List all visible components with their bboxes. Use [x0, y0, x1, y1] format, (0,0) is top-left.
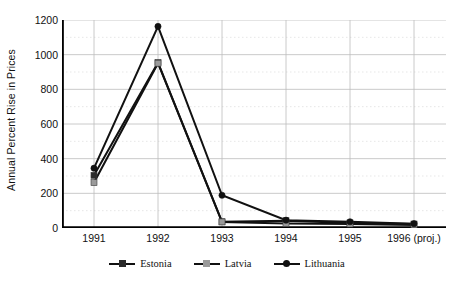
data-point	[91, 180, 97, 186]
legend-item-estonia[interactable]: Estonia	[109, 258, 172, 269]
line-chart: Annual Percent Rise in Prices 0200400600…	[0, 0, 454, 282]
series-estonia	[94, 63, 414, 224]
x-tick-label: 1994	[274, 232, 297, 244]
series-latvia	[94, 63, 414, 225]
legend-item-latvia[interactable]: Latvia	[194, 258, 252, 269]
legend-swatch-lithuania	[274, 259, 300, 269]
series-markers-estonia	[91, 60, 417, 227]
y-tick-label: 200	[40, 187, 58, 199]
series-markers-latvia	[91, 60, 417, 228]
legend-marker-circle-dark	[283, 260, 290, 267]
plot-svg	[62, 20, 446, 228]
y-tick-label: 800	[40, 83, 58, 95]
y-tick-label: 600	[40, 118, 58, 130]
series-line-latvia	[94, 63, 414, 225]
plot-area	[62, 20, 446, 228]
x-tick-label: 1992	[146, 232, 169, 244]
legend-marker-square-dark	[119, 260, 126, 267]
data-point	[219, 192, 225, 198]
legend-label: Estonia	[140, 258, 172, 269]
data-point	[283, 217, 289, 223]
series-lithuania	[94, 26, 414, 223]
y-tick-label: 1000	[35, 49, 58, 61]
data-point	[155, 60, 161, 66]
y-tick-label: 1200	[35, 14, 58, 26]
legend-item-lithuania[interactable]: Lithuania	[274, 258, 345, 269]
legend-label: Latvia	[225, 258, 252, 269]
data-point	[91, 172, 97, 178]
legend-swatch-estonia	[109, 259, 135, 269]
legend-swatch-latvia	[194, 259, 220, 269]
data-point	[411, 221, 417, 227]
data-point	[155, 23, 161, 29]
legend-marker-square-light	[203, 260, 210, 267]
y-tick-label: 400	[40, 153, 58, 165]
data-point	[91, 165, 97, 171]
chart-legend: EstoniaLatviaLithuania	[0, 258, 454, 269]
x-tick-label: 1996 (proj.)	[387, 232, 441, 244]
series-line-lithuania	[94, 26, 414, 223]
data-point	[219, 219, 225, 225]
y-axis-tick-labels: 020040060080010001200	[18, 0, 62, 248]
y-tick-label: 0	[52, 222, 58, 234]
x-tick-label: 1993	[210, 232, 233, 244]
data-point	[347, 219, 353, 225]
y-axis-title-text: Annual Percent Rise in Prices	[5, 49, 17, 191]
series-line-estonia	[94, 63, 414, 224]
x-tick-label: 1991	[82, 232, 105, 244]
x-tick-label: 1995	[338, 232, 361, 244]
x-axis-tick-labels: 199119921993199419951996 (proj.)	[62, 232, 446, 252]
legend-label: Lithuania	[305, 258, 345, 269]
series-markers-lithuania	[91, 23, 417, 226]
